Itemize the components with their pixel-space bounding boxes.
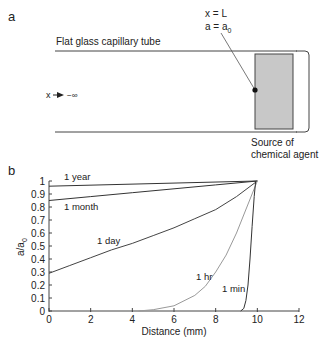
x-tick-label: 10 [252,314,264,325]
label-1-day: 1 day [97,235,120,246]
far-field-limit: −∞ [67,91,78,100]
panel-a-label: a [8,9,16,24]
source-label-line1: Source of [251,137,294,148]
tube-label: Flat glass capillary tube [56,36,161,47]
x-tick-label: 4 [130,314,136,325]
x-tick-label: 12 [293,314,305,325]
x-tick-label: 6 [171,314,177,325]
label-1-min: 1 min [222,283,245,294]
label-1-hr: 1 hr [196,271,212,282]
x-tick-label: 0 [46,314,52,325]
y-tick-label: 0.6 [31,228,45,239]
y-axis-label: a/a0 [15,238,28,256]
label-1-month: 1 month [64,201,98,212]
far-field-x: x [46,90,51,100]
tube-end-cap [296,51,309,132]
boundary-a-label: a = a0 [205,21,232,34]
label-1-year: 1 year [64,171,90,182]
panel-a: a Flat glass capillary tube x = L a = a0… [8,8,318,160]
boundary-point [252,87,257,92]
source-block [255,54,293,129]
y-tick-label: 0.3 [31,267,45,278]
y-tick-label: 0 [39,306,45,317]
arrow-right-icon [53,92,64,98]
panel-b-label: b [8,163,15,178]
y-tick-label: 0.4 [31,254,45,265]
y-tick-label: 0.2 [31,280,45,291]
y-tick-label: 0.5 [31,241,45,252]
figure: a Flat glass capillary tube x = L a = a0… [0,0,333,355]
y-tick-label: 0.9 [31,189,45,200]
x-tick-label: 8 [213,314,219,325]
y-tick-label: 0.7 [31,215,45,226]
y-tick-label: 0.1 [31,293,45,304]
x-axis-label: Distance (mm) [141,326,206,337]
x-tick-label: 2 [88,314,94,325]
y-tick-label: 0.8 [31,202,45,213]
y-tick-label: 1 [39,176,45,187]
source-label-line2: chemical agent [251,149,318,160]
panel-b: b 00.10.20.30.40.50.60.70.80.91 02468101… [8,163,305,337]
curve-1-day [49,181,257,273]
boundary-x-label: x = L [205,8,227,19]
boundary-leader-line [221,33,255,90]
